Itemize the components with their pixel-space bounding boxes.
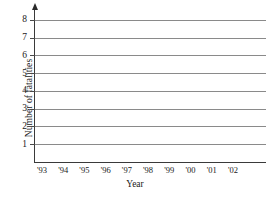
- gridline: [35, 144, 266, 145]
- x-axis-line: [34, 162, 266, 163]
- y-axis-tick-label: 4: [7, 85, 27, 95]
- y-axis-tick-label: 8: [7, 14, 27, 24]
- y-axis-tick: [30, 38, 35, 39]
- y-axis-tick-label: 5: [7, 68, 27, 78]
- gridline: [35, 38, 266, 39]
- y-axis-tick: [30, 20, 35, 21]
- y-axis-tick: [30, 144, 35, 145]
- x-axis-title: Year: [0, 179, 270, 189]
- y-axis-tick-label: 7: [7, 32, 27, 42]
- gridline: [35, 91, 266, 92]
- x-axis-tick-label: '02: [221, 165, 245, 176]
- fatalities-by-year-chart: Number of fatalities 12345678 '93'94'95'…: [0, 0, 270, 199]
- y-axis-tick: [30, 55, 35, 56]
- gridline: [35, 55, 266, 56]
- gridline: [35, 126, 266, 127]
- gridline: [35, 109, 266, 110]
- y-axis-line: [34, 10, 35, 163]
- y-axis-tick: [30, 73, 35, 74]
- y-axis-arrow-icon: [32, 3, 38, 10]
- y-axis-tick: [30, 91, 35, 92]
- y-axis-tick-label: 6: [7, 50, 27, 60]
- y-axis-tick-label: 3: [7, 103, 27, 113]
- y-axis-tick: [30, 109, 35, 110]
- gridline: [35, 20, 266, 21]
- gridline: [35, 73, 266, 74]
- y-axis-tick-label: 2: [7, 121, 27, 131]
- y-axis-tick: [30, 126, 35, 127]
- y-axis-tick-label: 1: [7, 139, 27, 149]
